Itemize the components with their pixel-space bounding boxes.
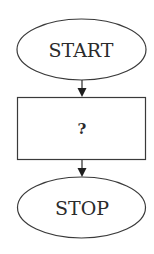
stop-node: STOP [18, 177, 146, 238]
connector-start-to-process [78, 80, 87, 97]
process-label: ? [78, 120, 87, 138]
connector-process-to-stop [78, 160, 87, 177]
start-label: START [48, 39, 113, 61]
flowchart: START ? STOP [0, 0, 154, 254]
arrowhead-icon [78, 88, 87, 97]
process-node: ? [18, 98, 146, 160]
arrowhead-icon [78, 168, 87, 177]
stop-label: STOP [55, 197, 109, 219]
start-node: START [17, 19, 146, 80]
